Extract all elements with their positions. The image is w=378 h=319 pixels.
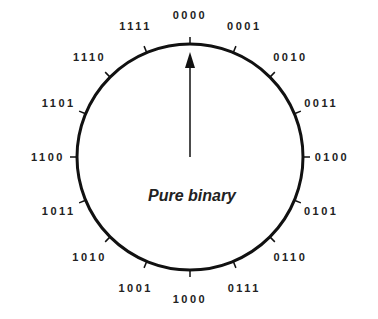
tick-mark	[105, 237, 110, 242]
code-label: 1010	[72, 251, 106, 263]
code-label: 0100	[315, 151, 349, 163]
code-label: 1011	[42, 205, 76, 217]
code-label: 0111	[228, 282, 261, 294]
code-label: 1100	[31, 151, 65, 163]
code-label: 0101	[304, 205, 338, 217]
code-label: 1101	[42, 97, 76, 109]
code-label: 0110	[273, 251, 307, 263]
tick-mark	[270, 72, 275, 77]
tick-mark	[105, 72, 110, 77]
pointer-arrow	[185, 52, 195, 157]
arrowhead-icon	[185, 52, 195, 68]
code-label: 0010	[273, 51, 307, 63]
tick-mark	[270, 237, 275, 242]
code-label: 0011	[304, 97, 338, 109]
encoder-diagram: 0000000100100011010001010110011110001001…	[0, 0, 378, 319]
code-label: 1000	[173, 293, 207, 305]
diagram-title: Pure binary	[148, 187, 237, 204]
code-label: 1110	[73, 51, 106, 63]
code-label: 1111	[119, 20, 152, 32]
encoder-disc: 0000000100100011010001010110011110001001…	[0, 0, 378, 319]
code-label: 1001	[118, 282, 152, 294]
code-label: 0001	[227, 20, 261, 32]
code-label: 0000	[173, 9, 207, 21]
